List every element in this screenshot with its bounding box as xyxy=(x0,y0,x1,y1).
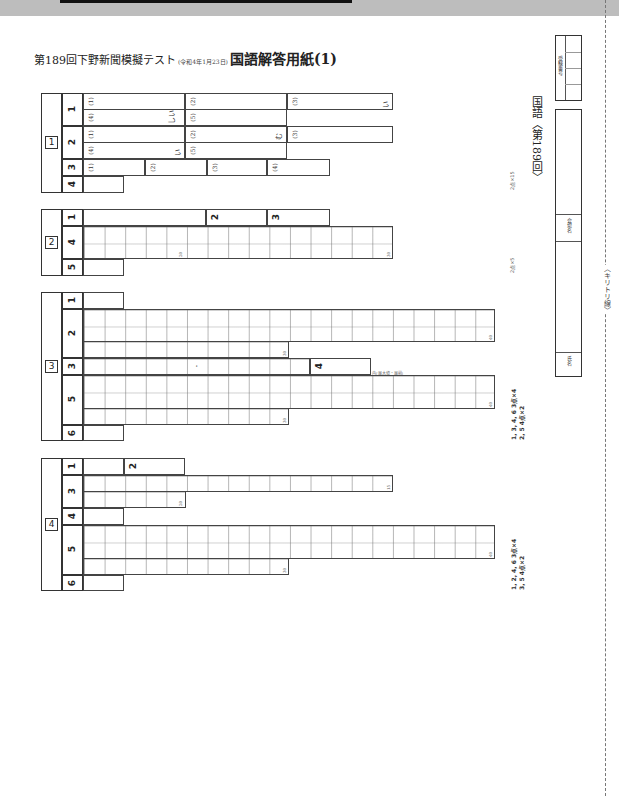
s1-q3-3-label: (3) xyxy=(211,163,218,172)
s3-q2-answer-grid-b[interactable] xyxy=(83,341,289,358)
s1-q3-1-label: (1) xyxy=(87,163,94,172)
s1-q2-3-label: (3) xyxy=(291,130,298,139)
s2-q4-number: 4 xyxy=(67,239,77,245)
exam-number-box: 受験番号 xyxy=(555,35,582,101)
s1-q1-1-label: (1) xyxy=(87,97,94,106)
s4-q4-number: 4 xyxy=(67,513,77,519)
s1-q1-2-answer[interactable] xyxy=(185,93,287,110)
s1-q2-2-suffix: む xyxy=(273,133,283,140)
s2-q1-answer[interactable] xyxy=(83,209,206,226)
s1-q4-number: 4 xyxy=(67,181,77,187)
s3-q2-number: 2 xyxy=(67,330,77,336)
s2-q4-mark-20: 20 xyxy=(178,252,183,257)
s3-q5-answer-grid-a[interactable] xyxy=(83,375,495,409)
s4-q3-mark-15: 15 xyxy=(386,485,391,490)
s1-q2-2-label: (2) xyxy=(189,130,196,139)
exam-number-label: 受験番号 xyxy=(557,56,564,76)
s4-q5-answer-grid-a[interactable] xyxy=(83,525,495,559)
s3-scoring-line-2: 2, 5 4点×2 xyxy=(517,406,526,440)
s2-q4-mark-30: 30 xyxy=(386,252,391,257)
s4-q1-number: 1 xyxy=(67,463,77,469)
section-4-number: 4 xyxy=(45,518,58,531)
s4-q5-number: 5 xyxy=(67,546,77,552)
s3-q2-mark-30: 30 xyxy=(282,351,287,356)
s3-q5-mark-40: 40 xyxy=(488,402,493,407)
s3-q3-marker: ・ xyxy=(192,363,201,369)
s1-q1-1-answer[interactable] xyxy=(83,93,185,110)
s1-q3-number: 3 xyxy=(67,164,77,170)
s1-q1-4-label: (4) xyxy=(87,113,94,122)
s4-q6-answer[interactable] xyxy=(83,575,124,591)
s4-scoring-line-2: 3, 5 4点×2 xyxy=(517,556,526,590)
s1-q2-4-suffix: い xyxy=(172,149,182,156)
venue-input[interactable] xyxy=(556,110,581,214)
s3-q1-number: 1 xyxy=(67,297,77,303)
subject-title: 国語〈第189回〉 xyxy=(528,96,544,183)
s4-q3-answer-grid-b[interactable] xyxy=(83,491,186,508)
s4-q6-number: 6 xyxy=(67,580,77,586)
s4-q3-answer-grid-a[interactable] xyxy=(83,475,393,492)
s4-q4-answer[interactable] xyxy=(83,508,124,525)
s1-q1-5-answer[interactable] xyxy=(185,109,287,126)
section-2-number: 2 xyxy=(45,236,58,249)
title-date: (令和4年1月23日) xyxy=(178,57,228,66)
s2-q1-number: 1 xyxy=(67,214,77,220)
s3-q5-answer-grid-b[interactable] xyxy=(83,408,289,425)
page-title: 第189回下野新聞模擬テスト (令和4年1月23日) 国語解答用紙(1) xyxy=(34,48,337,64)
s2-q2-number: 2 xyxy=(210,214,220,220)
s3-q2-mark-40: 40 xyxy=(488,335,493,340)
section-3-number: 3 xyxy=(45,360,58,373)
section-1-number: 1 xyxy=(45,136,58,149)
s2-scoring: 2点×5 xyxy=(508,257,515,273)
s3-q1-answer[interactable] xyxy=(83,292,124,309)
s1-q1-2-label: (2) xyxy=(189,97,196,106)
name-venue-box: 会場名 氏名 xyxy=(555,109,582,377)
s1-q2-1-answer[interactable] xyxy=(83,126,185,143)
s1-q1-3-answer[interactable] xyxy=(287,93,393,110)
s4-q2-number: 2 xyxy=(128,463,138,469)
s4-q5-mark-30: 30 xyxy=(282,568,287,573)
s2-q3-number: 3 xyxy=(271,214,281,220)
s2-q4-answer-grid[interactable] xyxy=(83,226,393,259)
s1-q2-5-answer[interactable] xyxy=(185,142,287,159)
venue-label: 会場名 xyxy=(566,218,573,233)
s1-q3-2-label: (2) xyxy=(149,163,156,172)
s1-q1-3-suffix: い xyxy=(380,101,390,108)
s1-q2-4-answer[interactable] xyxy=(83,142,185,159)
s1-q1-3-label: (3) xyxy=(291,97,298,106)
s3-q5-mark-30: 30 xyxy=(282,418,287,423)
s1-q2-3-answer[interactable] xyxy=(287,126,393,143)
s1-q1-number: 1 xyxy=(67,106,77,112)
cut-line xyxy=(605,0,606,796)
s1-q1-4-suffix: しい xyxy=(166,110,176,124)
s2-q5-answer[interactable] xyxy=(83,259,124,276)
s1-q3-4-label: (4) xyxy=(271,163,278,172)
title-prefix: 第189回下野新聞模擬テスト xyxy=(34,51,176,67)
name-label: 氏名 xyxy=(566,356,573,366)
s2-q5-number: 5 xyxy=(67,264,77,270)
top-banner xyxy=(0,0,619,16)
banner-black-bar xyxy=(60,0,352,3)
s4-q3-mark-20: 20 xyxy=(178,501,183,506)
s4-q5-mark-40: 40 xyxy=(488,552,493,557)
s4-q5-answer-grid-b[interactable] xyxy=(83,558,289,575)
s3-q4-number: 4 xyxy=(314,363,324,369)
s1-q4-answer[interactable] xyxy=(83,176,124,193)
s1-q2-1-label: (1) xyxy=(87,130,94,139)
s4-q1-answer[interactable] xyxy=(83,458,124,475)
title-main: 国語解答用紙(1) xyxy=(230,48,337,68)
s3-q2-answer-grid-a[interactable] xyxy=(83,309,495,342)
s1-scoring: 2点×15 xyxy=(508,171,515,190)
s1-q2-5-label: (5) xyxy=(189,146,196,155)
s1-q2-4-label: (4) xyxy=(87,146,94,155)
exam-number-input[interactable] xyxy=(565,36,581,100)
s3-q5-number: 5 xyxy=(67,396,77,402)
s3-q3-number: 3 xyxy=(67,363,77,369)
name-input[interactable] xyxy=(556,240,581,352)
s3-q6-number: 6 xyxy=(67,430,77,436)
s3-q6-answer[interactable] xyxy=(83,425,124,441)
s4-q3-number: 3 xyxy=(67,488,77,494)
cut-line-label: 〈キリトリ線〉 xyxy=(598,265,612,314)
s1-q1-5-label: (5) xyxy=(189,113,196,122)
s1-q2-number: 2 xyxy=(67,139,77,145)
